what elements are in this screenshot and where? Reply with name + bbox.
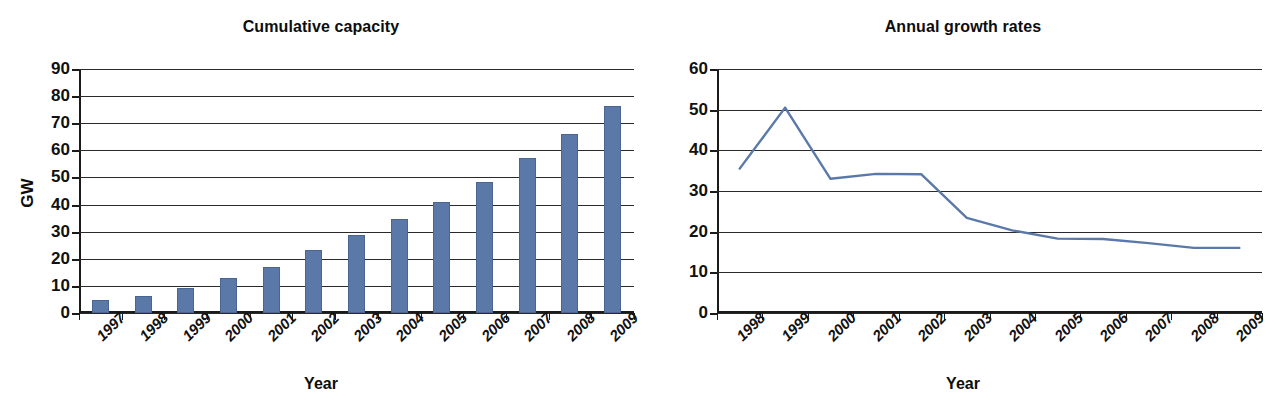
y-tick-mark [710,191,717,193]
panel-cumulative-capacity: Cumulative capacity GW 01020304050607080… [0,0,642,416]
y-tick-label: 50 [51,167,70,187]
y-axis-title-left: GW [18,173,38,213]
y-tick-mark [72,96,79,98]
y-tick-mark [72,69,79,71]
bar-2009 [604,106,621,313]
plot-area-right: 0102030405060199819992000200120022003200… [717,69,1262,313]
y-tick-mark [710,150,717,152]
x-tick-label-1998: 1998 [733,309,768,344]
y-tick-mark [72,259,79,261]
gridline [79,150,634,151]
x-tick-mark [717,313,718,320]
y-tick-label: 30 [689,181,708,201]
y-tick-mark [72,150,79,152]
x-tick-label-2004: 2004 [392,309,427,344]
y-tick-label: 10 [51,276,70,296]
bar-1998 [135,296,152,313]
x-axis-title-left: Year [0,375,642,393]
x-tick-label-1998: 1998 [136,309,171,344]
y-tick-mark [72,123,79,125]
bar-2001 [263,267,280,313]
bar-2006 [476,182,493,313]
bar-2007 [519,158,536,313]
x-tick-label-2005: 2005 [1051,309,1086,344]
y-tick-mark [710,69,717,71]
bar-2008 [561,134,578,313]
bar-2004 [391,219,408,313]
y-tick-label: 70 [51,113,70,133]
bar-2002 [305,250,322,313]
plot-area-left: 0102030405060708090199719981999200020012… [79,69,634,313]
x-tick-label-2006: 2006 [478,309,513,344]
figure-two-panel-chart: Cumulative capacity GW 01020304050607080… [0,0,1284,416]
x-axis-title-right: Year [642,375,1284,393]
y-tick-label: 60 [689,59,708,79]
x-tick-label-1997: 1997 [93,309,128,344]
y-axis-line-left [79,69,81,313]
y-tick-label: 0 [699,303,708,323]
bar-2000 [220,278,237,313]
gridline [79,69,634,70]
y-tick-label: 80 [51,86,70,106]
x-tick-mark [79,313,80,320]
y-tick-mark [710,313,717,315]
y-tick-label: 20 [51,249,70,269]
y-tick-mark [72,205,79,207]
y-tick-label: 90 [51,59,70,79]
y-tick-label: 0 [61,303,70,323]
x-tick-label-2000: 2000 [823,309,858,344]
line-series-annual-growth [717,69,1262,313]
y-tick-mark [72,313,79,315]
line-path [740,108,1240,248]
y-tick-mark [710,232,717,234]
gridline [79,123,634,124]
y-tick-label: 60 [51,140,70,160]
x-tick-label-2003: 2003 [960,309,995,344]
chart-title-right: Annual growth rates [642,18,1284,36]
x-tick-label-2001: 2001 [264,309,299,344]
y-tick-label: 50 [689,100,708,120]
x-tick-label-2008: 2008 [563,309,598,344]
y-tick-label: 20 [689,222,708,242]
gridline [79,96,634,97]
panel-annual-growth-rates: Annual growth rates % 010203040506019981… [642,0,1284,416]
y-tick-label: 30 [51,222,70,242]
x-tick-label-2002: 2002 [307,309,342,344]
y-tick-label: 40 [689,140,708,160]
y-tick-mark [710,272,717,274]
gridline [79,232,634,233]
y-tick-label: 10 [689,262,708,282]
x-tick-label-2009: 2009 [606,309,641,344]
x-tick-label-2008: 2008 [1187,309,1222,344]
x-tick-label-1999: 1999 [179,309,214,344]
x-tick-label-2000: 2000 [221,309,256,344]
y-tick-label: 40 [51,195,70,215]
chart-title-left: Cumulative capacity [0,18,642,36]
y-tick-mark [710,110,717,112]
y-tick-mark [72,177,79,179]
bar-2003 [348,235,365,313]
x-tick-label-2006: 2006 [1096,309,1131,344]
bar-1997 [92,300,109,313]
x-tick-label-2003: 2003 [349,309,384,344]
y-tick-mark [72,232,79,234]
gridline [79,205,634,206]
y-tick-mark [72,286,79,288]
x-tick-label-2001: 2001 [869,309,904,344]
bar-2005 [433,202,450,313]
x-tick-label-2005: 2005 [435,309,470,344]
x-tick-label-2007: 2007 [520,309,555,344]
bar-1999 [177,288,194,313]
gridline [79,177,634,178]
